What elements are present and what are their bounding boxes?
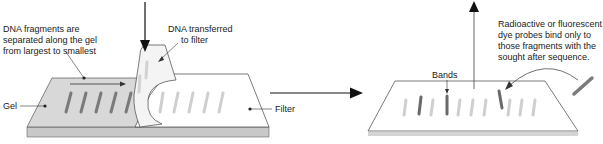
fragments-label-1: DNA fragments are bbox=[3, 24, 80, 34]
bands-label: Bands bbox=[432, 70, 458, 80]
down-arrow bbox=[140, 2, 150, 52]
probe-label-4: sought after sequence. bbox=[498, 52, 590, 62]
gel-slab-edge bbox=[27, 127, 269, 137]
probe-label-2: dye probes bind only to bbox=[498, 30, 591, 40]
fragments-label-2: separated along the gel bbox=[3, 35, 97, 45]
transfer-label-1: DNA transferred bbox=[168, 24, 233, 34]
transfer-label-2: to filter bbox=[181, 35, 208, 45]
gel-label: Gel bbox=[3, 101, 17, 111]
southern-blot-diagram: DNA fragments are separated along the ge… bbox=[0, 0, 603, 144]
fragments-label-3: from largest to smallest bbox=[3, 46, 97, 56]
probe bbox=[574, 78, 592, 94]
probe-label-3: those fragments with the bbox=[498, 41, 596, 51]
gel-assembly bbox=[20, 2, 272, 137]
filter-label: Filter bbox=[275, 104, 295, 114]
process-arrow bbox=[270, 88, 363, 99]
probe-label-1: Radioactive or fluorescent bbox=[498, 19, 603, 29]
